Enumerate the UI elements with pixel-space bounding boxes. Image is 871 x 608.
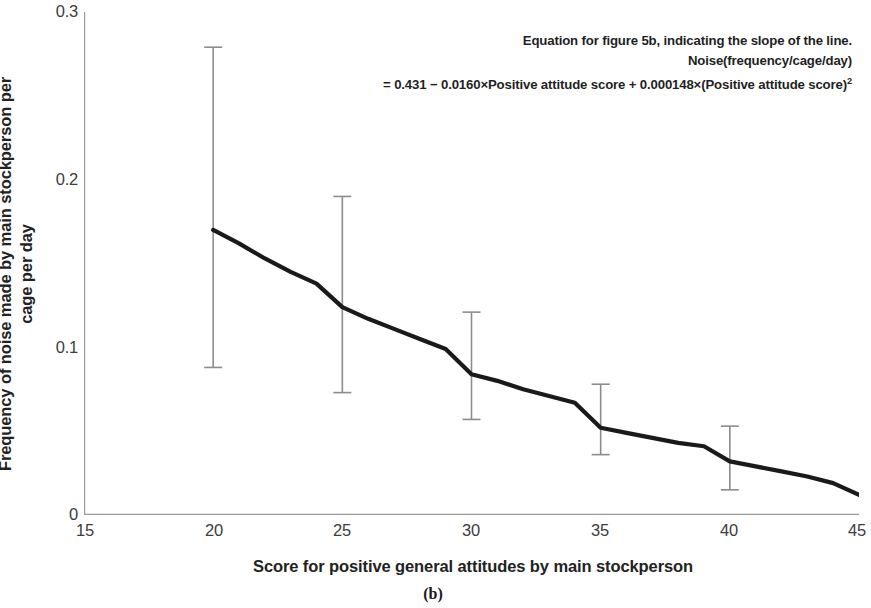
x-tick-label-30: 30 bbox=[441, 521, 501, 540]
equation-line-1: Equation for figure 5b, indicating the s… bbox=[272, 31, 852, 51]
y-tick-label-01: 0.1 bbox=[32, 338, 78, 357]
equation-annotation: Equation for figure 5b, indicating the s… bbox=[272, 31, 852, 95]
panel-caption: (b) bbox=[0, 585, 866, 603]
x-tick-label-25: 25 bbox=[312, 521, 372, 540]
equation-line-2: Noise(frequency/cage/day) bbox=[272, 51, 852, 71]
y-axis-tick-labels: 0.3 0.2 0.1 0 bbox=[16, 0, 78, 528]
y-tick-label-02: 0.2 bbox=[32, 170, 78, 189]
x-tick-label-20: 20 bbox=[184, 521, 244, 540]
equation-line-3: = 0.431 − 0.0160×Positive attitude score… bbox=[272, 71, 852, 95]
y-tick-label-03: 0.3 bbox=[32, 2, 78, 21]
x-tick-label-45: 45 bbox=[827, 521, 871, 540]
equation-line-3-text: = 0.431 − 0.0160×Positive attitude score… bbox=[383, 77, 847, 92]
x-tick-label-40: 40 bbox=[699, 521, 759, 540]
error-bar-x25 bbox=[333, 196, 351, 392]
fitted-curve bbox=[213, 230, 859, 495]
x-tick-label-15: 15 bbox=[55, 521, 115, 540]
x-axis-title: Score for positive general attitudes by … bbox=[80, 557, 866, 576]
x-axis-tick-labels: 15 20 25 30 35 40 45 bbox=[84, 521, 859, 547]
equation-exponent: 2 bbox=[847, 75, 852, 86]
x-tick-label-35: 35 bbox=[570, 521, 630, 540]
error-bar-x20 bbox=[204, 47, 222, 367]
